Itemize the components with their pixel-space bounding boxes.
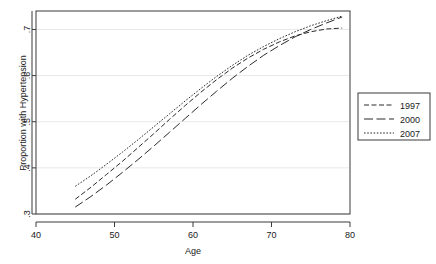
y-tick-label-0: .3 [22,210,32,218]
legend-label-1997: 1997 [400,101,420,111]
series-line-1997 [75,28,342,199]
x-tick-label-4: 80 [345,230,355,240]
x-tick-label-0: 40 [31,230,41,240]
y-tick-label-4: .7 [22,26,32,34]
x-tick-label-1: 50 [109,230,119,240]
gridlines [37,29,349,214]
x-axis-title: Age [36,246,350,256]
chart-legend: 199720002007 [358,93,430,140]
x-tick-label-3: 70 [266,230,276,240]
y-axis-title: Proportion with Hypertension [18,43,28,183]
plot-frame [36,11,350,214]
chart-figure: .3.4.5.6.7 4050607080 199720002007 Propo… [0,0,436,264]
chart-canvas: .3.4.5.6.7 4050607080 199720002007 [0,0,436,264]
data-series-group [75,16,342,207]
x-axis-ticks: 4050607080 [31,222,355,240]
x-tick-label-2: 60 [188,230,198,240]
series-line-2000 [75,17,342,207]
legend-label-2007: 2007 [400,129,420,139]
series-line-2007 [75,16,342,186]
legend-label-2000: 2000 [400,115,420,125]
